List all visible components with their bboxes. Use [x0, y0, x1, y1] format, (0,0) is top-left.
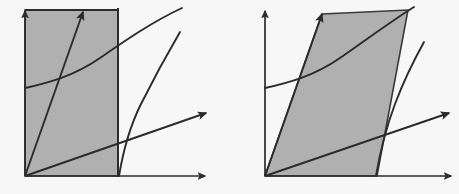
left-panel	[25, 8, 206, 177]
geometry-figure-svg	[0, 0, 459, 194]
right-panel	[265, 7, 451, 176]
left-steep-rising-curve	[119, 32, 180, 176]
left-shaded-rectangle	[25, 10, 118, 176]
diagram-canvas	[0, 0, 459, 194]
